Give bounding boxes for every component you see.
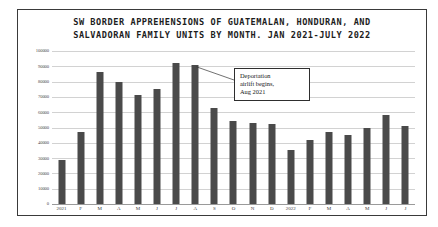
x-tick-label: J [175, 206, 177, 211]
gridline [52, 204, 415, 205]
x-tick-label: A [193, 206, 197, 211]
bar-slot [128, 51, 147, 204]
bar [268, 124, 275, 204]
x-tick-label: J [156, 206, 158, 211]
bar [211, 108, 218, 204]
bar [134, 95, 141, 204]
y-tick-label: 10000 [21, 186, 49, 191]
bar [249, 123, 256, 204]
x-axis-tick-labels: 2021FMAMJJASOND2022FMAMJJ [52, 206, 415, 218]
y-tick-label: 20000 [21, 171, 49, 176]
x-tick-label: S [213, 206, 216, 211]
bar-slot [167, 51, 186, 204]
x-tick-label: F [79, 206, 82, 211]
x-tick-label: A [117, 206, 121, 211]
bar [230, 121, 237, 204]
x-tick-label: J [404, 206, 406, 211]
x-tick-label: M [327, 206, 331, 211]
y-tick-label: 70000 [21, 94, 49, 99]
y-axis-tick-labels: 0100002000030000400005000060000700008000… [19, 51, 49, 204]
bar-slot [90, 51, 109, 204]
bar [287, 150, 294, 204]
chart-frame: SW BORDER APPREHENSIONS OF GUATEMALAN, H… [17, 9, 427, 216]
bar [364, 128, 371, 205]
chart-title: SW BORDER APPREHENSIONS OF GUATEMALAN, H… [18, 16, 426, 41]
bar-slot [396, 51, 415, 204]
chart-figure: SW BORDER APPREHENSIONS OF GUATEMALAN, H… [0, 0, 438, 227]
x-tick-label: A [346, 206, 350, 211]
bar-slot [71, 51, 90, 204]
y-tick-label: 90000 [21, 64, 49, 69]
bar [154, 89, 161, 204]
bar-slot [205, 51, 224, 204]
bar [115, 82, 122, 204]
x-tick-label: J [385, 206, 387, 211]
bar [96, 72, 103, 204]
x-tick-label: N [251, 206, 255, 211]
x-tick-label: O [232, 206, 236, 211]
bar-slot [377, 51, 396, 204]
x-tick-label: 2021 [57, 206, 67, 211]
bar-slot [186, 51, 205, 204]
y-tick-label: 80000 [21, 79, 49, 84]
y-tick-label: 50000 [21, 125, 49, 130]
bar-slot [148, 51, 167, 204]
bar-slot [339, 51, 358, 204]
x-tick-label: F [309, 206, 312, 211]
bar [77, 132, 84, 204]
bar [306, 140, 313, 204]
x-tick-label: M [365, 206, 369, 211]
bar-slot [358, 51, 377, 204]
bar [173, 63, 180, 204]
bar [58, 160, 65, 204]
x-tick-label: 2022 [286, 206, 296, 211]
y-tick-label: 100000 [21, 48, 49, 53]
bar [402, 126, 409, 204]
bar [326, 132, 333, 204]
x-tick-label: M [98, 206, 102, 211]
y-tick-label: 40000 [21, 140, 49, 145]
bar-slot [319, 51, 338, 204]
x-tick-label: M [136, 206, 140, 211]
y-tick-label: 30000 [21, 156, 49, 161]
bar [383, 115, 390, 204]
y-tick-label: 0 [21, 201, 49, 206]
y-tick-label: 60000 [21, 110, 49, 115]
bar-slot [109, 51, 128, 204]
x-tick-label: D [270, 206, 274, 211]
bar [345, 135, 352, 204]
bar [192, 65, 199, 204]
bar-slot [52, 51, 71, 204]
annotation-deportation-airlift: Deportation airlift begins, Aug 2021 [234, 68, 310, 101]
